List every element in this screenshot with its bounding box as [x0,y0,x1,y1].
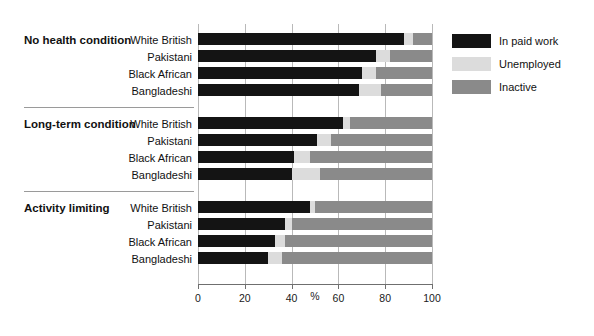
bar-row [198,84,432,96]
category-label: Bangladeshi [72,253,192,265]
x-axis-tick [338,284,339,289]
category-label: Bangladeshi [72,85,192,97]
x-axis-line [198,284,432,285]
bar-segment-paid [198,151,294,163]
bar-segment-unemp [268,252,282,264]
plot-area: 020406080100 [198,24,432,284]
category-label: Black African [72,152,192,164]
bar-row [198,218,432,230]
category-label: Black African [72,236,192,248]
category-label: Bangladeshi [72,169,192,181]
category-label: White British [72,118,192,130]
bar-segment-unemp [404,33,413,45]
bar-segment-unemp [362,67,376,79]
bar-segment-inact [350,117,432,129]
bar-segment-paid [198,252,268,264]
bar-segment-paid [198,84,359,96]
bar-segment-inact [285,235,432,247]
bar-row [198,134,432,146]
legend-label: Inactive [499,80,537,94]
group-separator [24,191,194,192]
bar-segment-inact [292,218,432,230]
stacked-bar-chart: No health conditionLong-term conditionAc… [0,0,594,336]
bar-segment-unemp [285,218,292,230]
x-axis-tick [292,284,293,289]
gridline [432,24,433,284]
bar-segment-paid [198,201,310,213]
x-axis-tick [198,284,199,289]
bar-row [198,67,432,79]
group-separator [24,107,194,108]
x-axis-title: % [198,290,432,302]
bar-segment-unemp [376,50,390,62]
legend-swatch-inact [452,80,491,94]
bar-segment-inact [381,84,432,96]
bar-segment-paid [198,235,275,247]
bar-segment-paid [198,33,404,45]
bar-row [198,117,432,129]
category-label: Black African [72,68,192,80]
bar-segment-inact [413,33,432,45]
legend-swatch-paid [452,34,491,48]
bar-segment-unemp [359,84,380,96]
bar-row [198,151,432,163]
bar-segment-inact [315,201,432,213]
category-label: Pakistani [72,135,192,147]
category-label-column: White BritishPakistaniBlack AfricanBangl… [68,24,192,284]
bar-segment-paid [198,218,285,230]
bar-row [198,252,432,264]
bar-segment-inact [320,168,432,180]
legend-label: In paid work [499,34,558,48]
bar-segment-paid [198,168,292,180]
bar-segment-paid [198,117,343,129]
bar-segment-inact [390,50,432,62]
bar-segment-paid [198,134,317,146]
category-label: Pakistani [72,51,192,63]
legend-label: Unemployed [499,57,561,71]
bar-segment-unemp [343,117,350,129]
category-label: Pakistani [72,219,192,231]
bar-segment-inact [282,252,432,264]
bar-row [198,33,432,45]
bar-segment-unemp [275,235,284,247]
x-axis-tick [245,284,246,289]
bar-segment-unemp [294,151,310,163]
bar-segment-inact [376,67,432,79]
bar-row [198,235,432,247]
bar-segment-paid [198,67,362,79]
bar-segment-inact [310,151,432,163]
legend-item: In paid work [452,34,588,48]
category-label: White British [72,34,192,46]
bar-segment-inact [331,134,432,146]
legend: In paid workUnemployedInactive [452,34,588,103]
legend-item: Inactive [452,80,588,94]
bar-row [198,168,432,180]
category-label: White British [72,202,192,214]
bar-segment-unemp [317,134,331,146]
bar-segment-unemp [292,168,320,180]
bar-row [198,201,432,213]
legend-swatch-unemp [452,57,491,71]
bar-segment-paid [198,50,376,62]
bar-row [198,50,432,62]
x-axis-tick [385,284,386,289]
x-axis-tick [432,284,433,289]
legend-item: Unemployed [452,57,588,71]
